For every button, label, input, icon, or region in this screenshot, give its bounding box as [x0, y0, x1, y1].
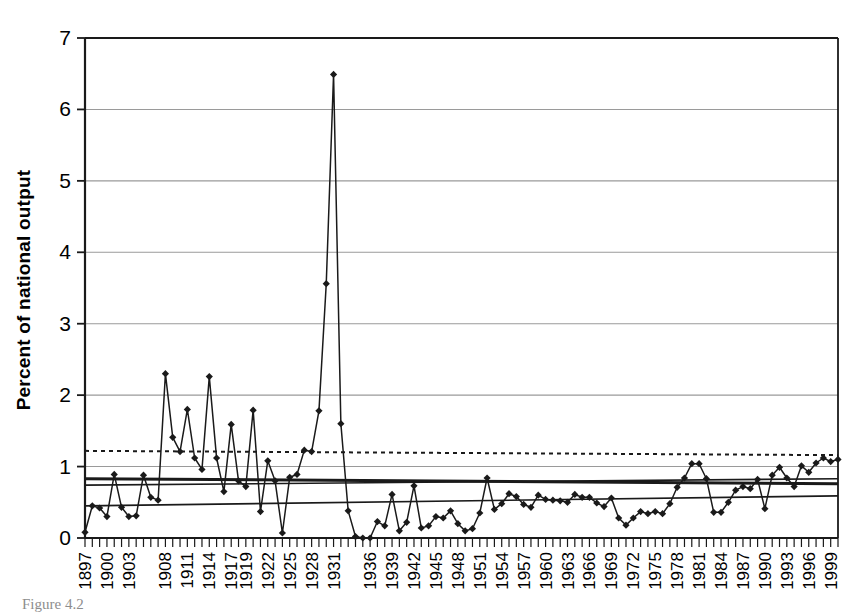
y-tick-label: 7 — [59, 26, 71, 49]
figure-container: Percent of national output 01234567 1897… — [0, 0, 866, 614]
x-tick-label: 1903 — [120, 552, 139, 590]
y-tick-label: 0 — [59, 526, 71, 549]
y-axis-label-text: Percent of national output — [13, 169, 34, 410]
x-tick-label: 1928 — [303, 552, 322, 590]
chart-background — [0, 0, 866, 614]
x-tick-label: 1908 — [156, 552, 175, 590]
x-tick-label: 1978 — [668, 552, 687, 590]
x-tick-label: 1963 — [559, 552, 578, 590]
x-tick-label: 1951 — [471, 552, 490, 590]
x-tick-label: 1987 — [734, 552, 753, 590]
x-tick-label: 1919 — [237, 552, 256, 590]
y-tick-label: 5 — [59, 169, 71, 192]
x-tick-label: 1954 — [493, 552, 512, 590]
chart-canvas: Percent of national output 01234567 1897… — [0, 0, 866, 614]
x-tick-label: 1939 — [383, 552, 402, 590]
x-tick-label: 1922 — [259, 552, 278, 590]
x-tick-label: 1900 — [98, 552, 117, 590]
x-tick-label: 1945 — [427, 552, 446, 590]
x-tick-label: 1966 — [580, 552, 599, 590]
y-axis-label: Percent of national output — [13, 169, 34, 410]
x-tick-label: 1911 — [178, 552, 197, 589]
x-tick-label: 1975 — [646, 552, 665, 590]
x-tick-label: 1925 — [281, 552, 300, 590]
x-axis-tick-labels: 1897190019031908191119141917191919221925… — [76, 552, 841, 590]
x-tick-label: 1990 — [756, 552, 775, 590]
x-tick-label: 1942 — [405, 552, 424, 590]
x-tick-label: 1957 — [515, 552, 534, 590]
x-tick-label: 1981 — [690, 552, 709, 590]
x-tick-label: 1993 — [778, 552, 797, 590]
figure-caption: Figure 4.2 — [22, 596, 84, 612]
x-tick-label: 1948 — [449, 552, 468, 590]
x-tick-label: 1914 — [200, 552, 219, 590]
x-tick-label: 1999 — [822, 552, 841, 590]
y-tick-label: 3 — [59, 312, 71, 335]
x-tick-label: 1984 — [712, 552, 731, 590]
y-tick-label: 2 — [59, 383, 71, 406]
y-tick-label: 1 — [59, 455, 71, 478]
y-tick-label: 4 — [59, 240, 71, 263]
x-tick-label: 1996 — [800, 552, 819, 590]
x-tick-label: 1969 — [602, 552, 621, 590]
x-tick-label: 1936 — [361, 552, 380, 590]
x-tick-label: 1931 — [325, 552, 344, 590]
y-tick-label: 6 — [59, 97, 71, 120]
x-tick-label: 1897 — [76, 552, 95, 590]
x-tick-label: 1960 — [537, 552, 556, 590]
x-tick-label: 1972 — [624, 552, 643, 590]
